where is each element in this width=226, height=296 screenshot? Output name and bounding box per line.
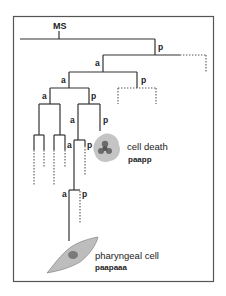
fate-label-pharyngeal-cell: pharyngeal cell [95, 250, 159, 261]
branch-label-p: p [141, 75, 146, 85]
branch-label-a: a [62, 189, 67, 199]
branch-label-p: p [87, 140, 92, 150]
branch-label-a: a [67, 140, 72, 150]
lineage-code-paapaaa: paapaaa [95, 263, 128, 272]
branch-label-a: a [70, 115, 75, 125]
branch-label-a: a [95, 58, 100, 68]
dying-cell-icon [93, 134, 120, 162]
branch-label-p: p [82, 189, 87, 199]
branch-label-a: a [61, 75, 66, 85]
branch-label-p: p [103, 115, 108, 125]
root-label: MS [53, 21, 67, 31]
branch-label-p: p [91, 91, 96, 101]
branch-label-a: a [42, 91, 47, 101]
fate-label-cell-death: cell death [127, 141, 168, 152]
lineage-diagram: MS p a p a a p p a a p a p [0, 0, 226, 296]
branch-label-p: p [158, 42, 163, 52]
lineage-code-paapp: paapp [128, 155, 152, 164]
pharyngeal-cell-icon [47, 237, 98, 273]
